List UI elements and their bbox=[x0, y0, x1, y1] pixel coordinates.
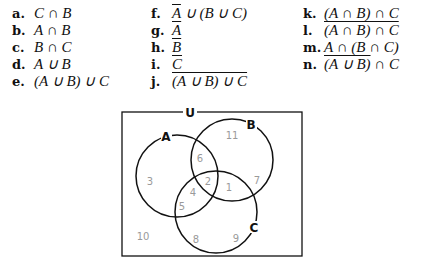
region-number: 8 bbox=[193, 234, 199, 245]
universe-label: U bbox=[185, 106, 195, 120]
region-number: 4 bbox=[190, 187, 196, 198]
region-number: 3 bbox=[147, 176, 153, 187]
set-c-label: C bbox=[250, 221, 259, 235]
venn-diagram: U A B C 11 6 3 2 1 7 4 5 10 8 9 bbox=[0, 0, 423, 273]
region-number: 6 bbox=[197, 153, 203, 164]
region-number: 5 bbox=[179, 201, 185, 212]
set-a-label: A bbox=[161, 130, 171, 144]
region-number: 1 bbox=[226, 182, 232, 193]
region-number: 2 bbox=[205, 176, 211, 187]
region-number: 10 bbox=[137, 231, 150, 242]
set-b-label: B bbox=[246, 118, 255, 132]
region-number: 7 bbox=[254, 175, 260, 186]
set-c-circle bbox=[175, 171, 257, 253]
region-number: 11 bbox=[226, 130, 239, 141]
region-number: 9 bbox=[233, 233, 239, 244]
